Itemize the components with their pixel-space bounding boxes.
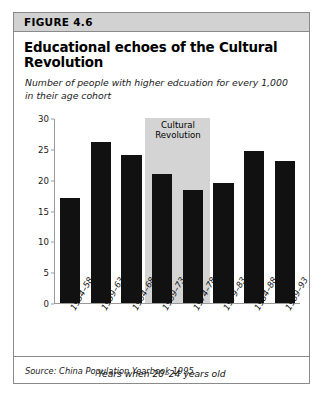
figure-number-label: FIGURE 4.6: [14, 16, 93, 28]
y-axis-tick-mark: [51, 119, 54, 120]
y-axis-tick-label: 10: [38, 237, 49, 247]
figure-frame: FIGURE 4.6 Educational echoes of the Cul…: [13, 12, 310, 384]
y-axis-tick-mark: [51, 242, 54, 243]
chart-plot-area: Cultural Revolution 051015202530 1954–58…: [14, 113, 309, 321]
bar: [91, 142, 111, 303]
bar: [213, 183, 233, 303]
source-note: Source: China Population Yearbook 1995.: [25, 366, 196, 376]
bar-slot: 1969–73: [147, 119, 178, 303]
bar-slot: 1959–63: [86, 119, 117, 303]
y-axis-tick-label: 0: [44, 299, 49, 309]
figure-subtitle: Number of people with higher edcuation f…: [14, 70, 309, 102]
bar-series: 1954–581959–631964–681969–731974–781979–…: [55, 119, 299, 303]
bar-slot: 1984–88: [239, 119, 270, 303]
y-axis-tick-label: 5: [44, 268, 49, 278]
figure-title: Educational echoes of the Cultural Revol…: [14, 32, 309, 70]
bar: [60, 198, 80, 303]
y-axis-tick-mark: [51, 304, 54, 305]
source-divider: [14, 356, 309, 357]
bar-slot: 1979–83: [208, 119, 239, 303]
y-axis-tick-mark: [51, 211, 54, 212]
bar-slot: 1964–68: [116, 119, 147, 303]
bar-slot: 1954–58: [55, 119, 86, 303]
y-axis-tick-mark: [51, 149, 54, 150]
bar-slot: 1974–78: [178, 119, 209, 303]
y-axis-tick-mark: [51, 273, 54, 274]
bar: [121, 155, 141, 303]
figure-header: FIGURE 4.6: [14, 13, 309, 32]
y-axis-tick-label: 30: [38, 114, 49, 124]
y-axis-tick-label: 15: [38, 207, 49, 217]
bar: [152, 174, 172, 304]
bar: [275, 161, 295, 303]
chart-axes: Cultural Revolution 051015202530 1954–58…: [54, 119, 299, 304]
bar: [244, 151, 264, 303]
bar-slot: 1989–93: [269, 119, 300, 303]
y-axis-tick-label: 20: [38, 176, 49, 186]
y-axis-tick-mark: [51, 180, 54, 181]
y-axis-tick-label: 25: [38, 145, 49, 155]
bar: [183, 190, 203, 303]
